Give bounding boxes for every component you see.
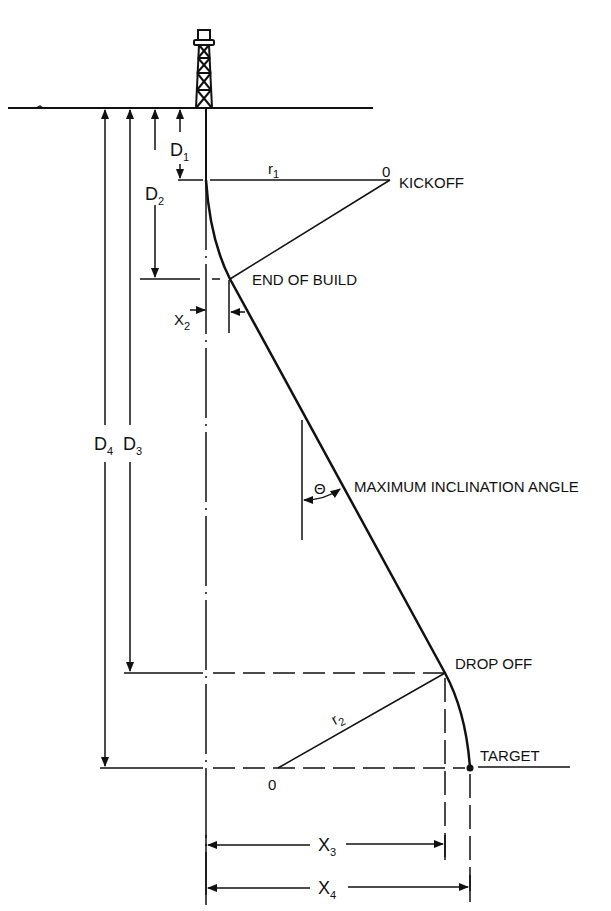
- depth-arrows: [105, 110, 180, 766]
- d1-label: D1: [170, 140, 189, 163]
- drop-off-label: DROP OFF: [455, 655, 532, 672]
- d2-label: D2: [145, 184, 164, 207]
- r2-label: r2: [328, 708, 347, 731]
- d3-label: D3: [123, 434, 142, 457]
- target-center-label: 0: [268, 776, 276, 793]
- x4-label: X4: [318, 878, 336, 901]
- ground-surface-line: [8, 106, 373, 108]
- r1-label: r1: [268, 160, 279, 180]
- d4-label: D4: [94, 434, 113, 457]
- kickoff-label: KICKOFF: [399, 174, 464, 191]
- end-of-build-label: END OF BUILD: [252, 271, 357, 288]
- kickoff-center-label: 0: [382, 163, 390, 180]
- x2-dimension: [190, 280, 245, 333]
- max-inclination-label: MAXIMUM INCLINATION ANGLE: [354, 478, 579, 495]
- target-point: [467, 765, 474, 772]
- x2-label: X2: [174, 311, 190, 332]
- drop-off-line: [124, 673, 445, 860]
- target-depth-line: [100, 767, 570, 895]
- theta-symbol: Θ: [314, 480, 326, 497]
- x3-label: X3: [318, 835, 336, 858]
- derrick-icon: [194, 30, 214, 108]
- displacement-arrows: [206, 835, 470, 905]
- kickoff-radius: [178, 180, 390, 279]
- target-label: TARGET: [480, 747, 540, 764]
- well-profile-diagram: r1 0 KICKOFF END OF BUILD X2 Θ MAXIMUM I…: [0, 0, 611, 911]
